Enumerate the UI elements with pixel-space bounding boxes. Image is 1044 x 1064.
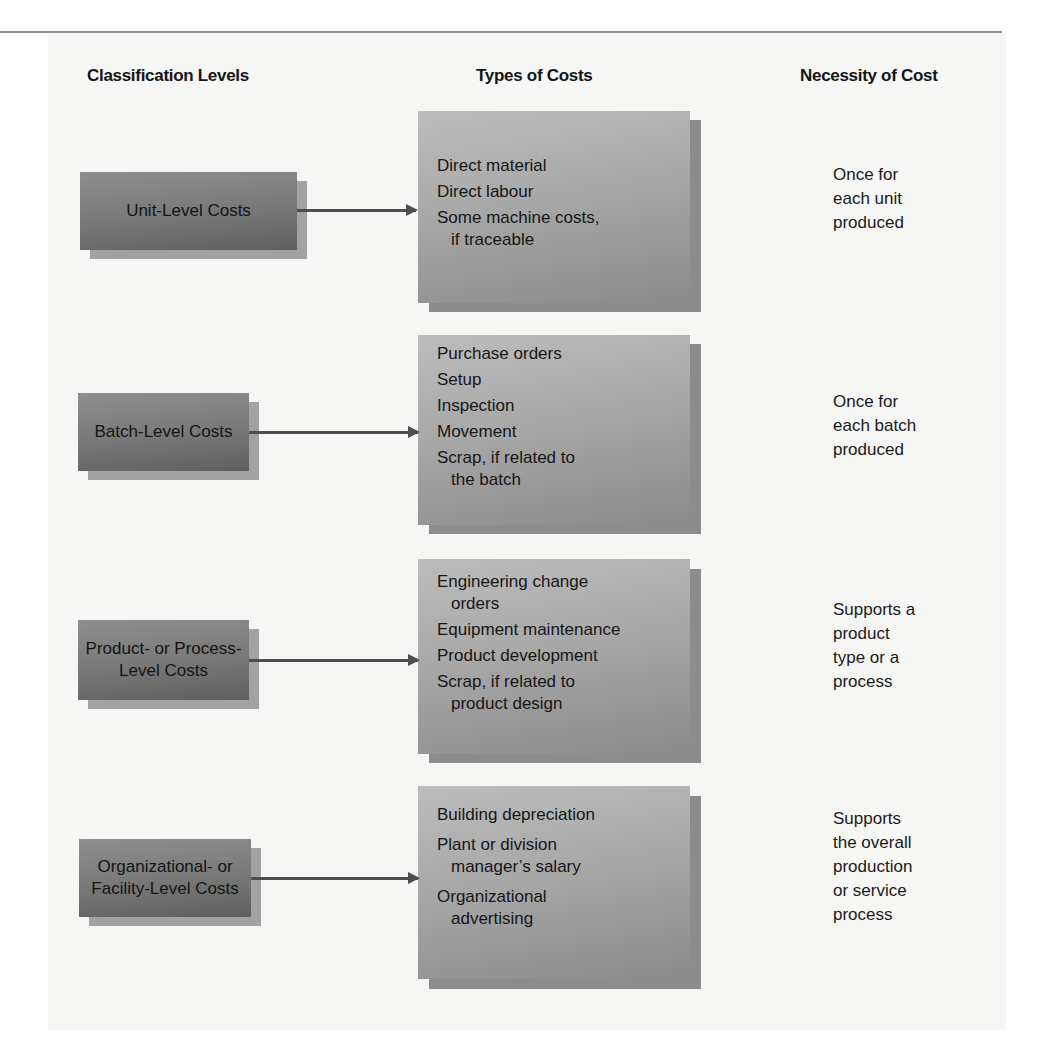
header-necessity-of-cost: Necessity of Cost [800,66,938,86]
types-box-product-process: Engineering changeorders Equipment maint… [418,559,690,754]
level-label-line2: Level Costs [119,660,208,682]
level-box-unit: Unit-Level Costs [80,172,297,250]
types-box-organizational-facility: Building depreciation Plant or divisionm… [418,786,690,979]
header-classification-levels: Classification Levels [87,66,249,86]
necessity-organizational-facility: Supports the overall production or servi… [833,807,912,927]
level-label-line1: Product- or Process- [86,638,242,660]
type-item: Some machine costs,if traceable [437,207,690,251]
type-item: Plant or divisionmanager’s salary [437,834,690,878]
type-item: Scrap, if related tothe batch [437,447,690,491]
type-item: Scrap, if related toproduct design [437,671,690,715]
level-label: Batch-Level Costs [95,421,233,443]
arrow-right-icon [249,431,418,434]
type-item: Movement [437,421,690,443]
level-label-line2: Facility-Level Costs [91,878,238,900]
level-box-product-process: Product- or Process- Level Costs [78,620,249,700]
type-item: Setup [437,369,690,391]
level-label-line1: Organizational- or [97,856,232,878]
type-item: Organizationaladvertising [437,886,690,930]
type-item: Direct material [437,155,690,177]
type-item: Direct labour [437,181,690,203]
type-item: Equipment maintenance [437,619,690,641]
type-item: Engineering changeorders [437,571,690,615]
type-item: Inspection [437,395,690,417]
level-box-batch: Batch-Level Costs [78,393,249,471]
type-item: Product development [437,645,690,667]
arrow-right-icon [251,877,418,880]
arrow-right-icon [249,659,418,662]
level-label: Unit-Level Costs [126,200,251,222]
necessity-product-process: Supports a product type or a process [833,598,915,694]
type-item: Building depreciation [437,804,690,826]
types-box-unit: Direct material Direct labour Some machi… [418,111,690,303]
header-types-of-costs: Types of Costs [476,66,592,86]
type-item: Purchase orders [437,343,690,365]
necessity-batch: Once for each batch produced [833,390,916,462]
arrow-right-icon [297,209,416,212]
types-box-batch: Purchase orders Setup Inspection Movemen… [418,335,690,525]
level-box-organizational-facility: Organizational- or Facility-Level Costs [79,839,251,917]
necessity-unit: Once for each unit produced [833,163,904,235]
